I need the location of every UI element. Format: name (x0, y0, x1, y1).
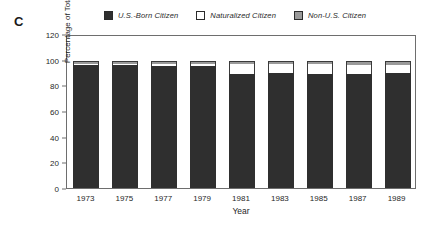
x-tick-label: 1979 (193, 194, 211, 203)
bar-segment-born (73, 65, 99, 188)
bar-segment-born (307, 74, 333, 188)
bar-segment-born (151, 66, 177, 188)
y-tick-label: 0 (55, 185, 62, 194)
bar-segment-nat (346, 65, 372, 74)
bar-segment-born (190, 66, 216, 188)
bar-segment-born (229, 74, 255, 188)
legend-label: U.S.-Born Citizen (118, 11, 178, 20)
white-swatch-icon (196, 11, 205, 20)
y-tick-label: 60 (50, 108, 62, 117)
y-tick: 20 (50, 159, 66, 168)
x-axis-title: Year (66, 206, 416, 216)
bar-stack (346, 61, 372, 188)
bar-stack (268, 61, 294, 188)
x-tick-label: 1983 (271, 194, 289, 203)
y-tick: 0 (55, 185, 66, 194)
bar-segment-nat (385, 65, 411, 73)
bar-stack (229, 61, 255, 188)
y-tick-label: 100 (46, 56, 62, 65)
bar-stack (151, 61, 177, 188)
bar-stack (190, 61, 216, 188)
plot-area: Percentage of Total Field (66, 35, 416, 189)
bar-segment-born (385, 73, 411, 189)
bar-stack (307, 61, 333, 188)
legend-label: Non-U.S. Citizen (308, 11, 366, 20)
bar-segment-nat (268, 64, 294, 73)
x-tick-label: 1981 (232, 194, 250, 203)
bar-segment-born (112, 65, 138, 188)
legend-item: Naturalized Citizen (196, 11, 276, 20)
legend-item: Non-U.S. Citizen (294, 11, 366, 20)
y-tick: 60 (50, 108, 66, 117)
bar-stack (112, 61, 138, 188)
x-tick-label: 1989 (388, 194, 406, 203)
x-tick-label: 1973 (77, 194, 95, 203)
bar-stack (385, 61, 411, 188)
legend-item: U.S.-Born Citizen (104, 11, 178, 20)
y-tick-label: 40 (50, 133, 62, 142)
bar-segment-nat (307, 64, 333, 74)
gray-swatch-icon (294, 11, 303, 20)
bar-group (67, 36, 415, 188)
chart-figure: C U.S.-Born CitizenNaturalized CitizenNo… (0, 0, 436, 231)
x-tick-label: 1977 (154, 194, 172, 203)
x-tick-label: 1985 (310, 194, 328, 203)
bar-stack (73, 61, 99, 188)
dark-swatch-icon (104, 11, 113, 20)
y-tick: 40 (50, 133, 66, 142)
panel-label: C (14, 14, 24, 29)
x-tick-label: 1987 (349, 194, 367, 203)
y-axis-ticks: 020406080100120 (0, 35, 66, 189)
y-tick-label: 120 (46, 31, 62, 40)
bar-segment-born (268, 73, 294, 189)
bar-segment-born (346, 74, 372, 188)
legend-label: Naturalized Citizen (210, 11, 276, 20)
bar-segment-nat (229, 64, 255, 74)
y-tick-label: 80 (50, 82, 62, 91)
x-tick-label: 1975 (115, 194, 133, 203)
chart-legend: U.S.-Born CitizenNaturalized CitizenNon-… (104, 11, 366, 20)
x-axis-ticks: 197319751977197919811983198519871989 (66, 190, 416, 206)
y-tick-label: 20 (50, 159, 62, 168)
